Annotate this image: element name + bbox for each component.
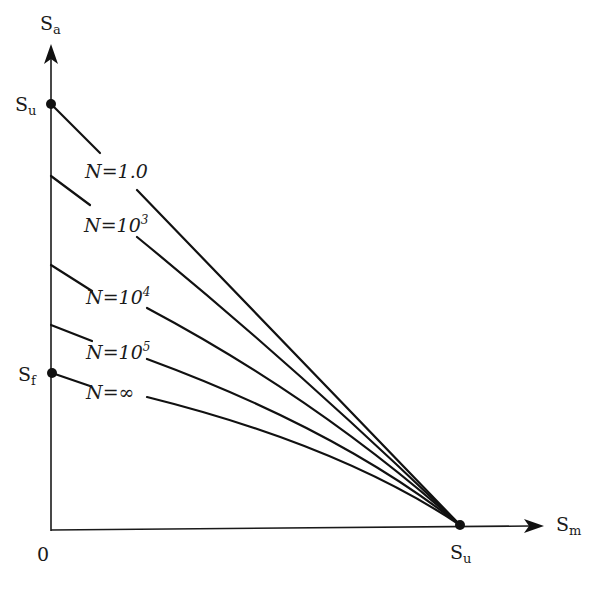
curve-label-n-inf: N=∞: [85, 381, 134, 403]
goodman-diagram: Sa Sm 0 Su Sf Su N=1.0 N=103: [0, 0, 608, 595]
y-axis-label: Sa: [40, 12, 61, 37]
x-axis-label: Sm: [556, 513, 581, 538]
curve-label-n-1e4: N=104: [85, 285, 150, 308]
curve-label-n-1e3: N=103: [83, 213, 149, 236]
y-point-label-sf: Sf: [18, 363, 37, 388]
x-axis: [51, 519, 544, 533]
y-axis: [44, 44, 58, 531]
curve-label-n-1: N=1.0: [84, 160, 148, 182]
y-point-label-su: Su: [15, 93, 36, 118]
curve-label-n-1e5: N=105: [85, 340, 150, 363]
origin-label: 0: [37, 543, 49, 565]
x-point-label-su: Su: [450, 541, 471, 566]
